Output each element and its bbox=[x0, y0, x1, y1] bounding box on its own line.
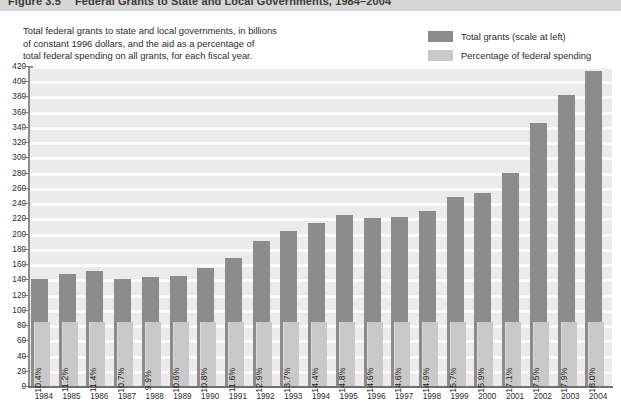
x-tick-label: 1985 bbox=[62, 392, 80, 401]
bar-series-container: 10.4%11.2%11.4%10.7%9.9%10.6%10.8%11.6%1… bbox=[30, 66, 612, 386]
figure-title-text: Figure 3.5Federal Grants to State and Lo… bbox=[8, 0, 391, 7]
bar-percentage-label: 14.6% bbox=[393, 367, 403, 392]
bar-percentage-label: 11.2% bbox=[60, 368, 70, 393]
bar-group[interactable]: 14.6% bbox=[363, 66, 391, 386]
bar-group[interactable]: 11.2% bbox=[58, 66, 86, 386]
y-tick-mark bbox=[23, 310, 29, 311]
bar-percentage-label: 11.6% bbox=[227, 368, 237, 393]
x-tick-label: 2001 bbox=[506, 392, 524, 401]
x-tick-label: 1984 bbox=[35, 392, 53, 401]
bar-group[interactable]: 9.9% bbox=[141, 66, 169, 386]
bar-percentage-label: 13.7% bbox=[282, 367, 292, 392]
x-axis-labels: 1984198519861987198819891990199119921993… bbox=[30, 392, 612, 408]
bar-percentage[interactable]: 11.2% bbox=[62, 322, 78, 386]
y-tick-mark bbox=[23, 356, 29, 357]
legend-item-total-grants: Total grants (scale at left) bbox=[428, 28, 618, 45]
x-tick-label: 1988 bbox=[146, 392, 164, 401]
bar-percentage[interactable]: 10.4% bbox=[34, 322, 50, 386]
bar-percentage-label: 11.4% bbox=[88, 368, 98, 393]
y-tick-mark bbox=[23, 279, 29, 280]
y-tick-mark bbox=[23, 66, 29, 67]
bar-group[interactable]: 11.4% bbox=[85, 66, 113, 386]
bar-percentage-label: 10.6% bbox=[171, 367, 181, 392]
bar-percentage[interactable]: 14.8% bbox=[339, 322, 355, 386]
bar-percentage[interactable]: 10.7% bbox=[117, 322, 133, 386]
y-tick-mark bbox=[23, 249, 29, 250]
caption-line-1: Total federal grants to state and local … bbox=[23, 25, 323, 38]
legend-swatch-total-grants bbox=[428, 31, 453, 42]
bar-percentage[interactable]: 10.6% bbox=[173, 322, 189, 386]
figure-caption: Total federal grants to state and local … bbox=[23, 25, 323, 63]
bar-percentage-label: 14.6% bbox=[365, 367, 375, 392]
bar-percentage[interactable]: 14.9% bbox=[422, 322, 438, 386]
bar-percentage-label: 15.7% bbox=[448, 367, 458, 392]
bar-percentage-label: 15.9% bbox=[476, 367, 486, 392]
bar-group[interactable]: 11.6% bbox=[224, 66, 252, 386]
figure-number: Figure 3.5 bbox=[8, 0, 61, 7]
bar-percentage-label: 17.9% bbox=[559, 367, 569, 392]
bar-percentage-label: 9.9% bbox=[143, 370, 153, 390]
bar-percentage[interactable]: 13.7% bbox=[283, 322, 299, 386]
bar-percentage[interactable]: 12.9% bbox=[256, 322, 272, 386]
bar-percentage[interactable]: 10.8% bbox=[200, 322, 216, 386]
bar-group[interactable]: 15.7% bbox=[446, 66, 474, 386]
y-tick-mark bbox=[23, 81, 29, 82]
bar-group[interactable]: 14.8% bbox=[335, 66, 363, 386]
x-tick-label: 1999 bbox=[450, 392, 468, 401]
bar-percentage-label: 14.4% bbox=[310, 367, 320, 392]
bar-percentage-label: 17.5% bbox=[531, 367, 541, 392]
bar-percentage[interactable]: 17.9% bbox=[561, 322, 577, 386]
bar-percentage[interactable]: 15.9% bbox=[477, 322, 493, 386]
y-tick-mark bbox=[23, 218, 29, 219]
bar-percentage[interactable]: 9.9% bbox=[145, 322, 161, 386]
x-tick-label: 2002 bbox=[534, 392, 552, 401]
bar-percentage[interactable]: 15.7% bbox=[450, 322, 466, 386]
x-tick-label: 1997 bbox=[395, 392, 413, 401]
y-tick-mark bbox=[23, 203, 29, 204]
bar-group[interactable]: 14.9% bbox=[418, 66, 446, 386]
bar-percentage[interactable]: 14.6% bbox=[394, 322, 410, 386]
bar-group[interactable]: 10.8% bbox=[196, 66, 224, 386]
bar-group[interactable]: 17.5% bbox=[529, 66, 557, 386]
bar-group[interactable]: 13.7% bbox=[279, 66, 307, 386]
bar-group[interactable]: 14.4% bbox=[307, 66, 335, 386]
bar-group[interactable]: 10.4% bbox=[30, 66, 58, 386]
figure-title-bar: Figure 3.5Federal Grants to State and Lo… bbox=[0, 0, 621, 11]
legend-label-percentage: Percentage of federal spending bbox=[461, 50, 591, 61]
bar-group[interactable]: 12.9% bbox=[252, 66, 280, 386]
y-tick-mark bbox=[23, 173, 29, 174]
bar-percentage[interactable]: 11.6% bbox=[228, 322, 244, 386]
y-tick-mark bbox=[23, 142, 29, 143]
bar-group[interactable]: 17.1% bbox=[501, 66, 529, 386]
x-tick-label: 1986 bbox=[90, 392, 108, 401]
bar-group[interactable]: 15.9% bbox=[473, 66, 501, 386]
caption-line-2: of constant 1996 dollars, and the aid as… bbox=[23, 38, 323, 51]
bar-group[interactable]: 14.6% bbox=[390, 66, 418, 386]
bar-percentage[interactable]: 14.4% bbox=[311, 322, 327, 386]
bar-percentage[interactable]: 18.0% bbox=[588, 322, 604, 386]
bar-percentage-label: 10.8% bbox=[199, 367, 209, 392]
chart-legend: Total grants (scale at left) Percentage … bbox=[428, 28, 618, 66]
chart-plot: 0204060801001201401601802002202402602803… bbox=[0, 62, 621, 408]
bar-group[interactable]: 17.9% bbox=[557, 66, 585, 386]
bar-percentage-label: 14.9% bbox=[421, 367, 431, 392]
bar-percentage-label: 18.0% bbox=[587, 367, 597, 392]
bar-group[interactable]: 18.0% bbox=[584, 66, 612, 386]
y-tick-mark bbox=[23, 295, 29, 296]
caption-line-3: total federal spending on all grants, fo… bbox=[23, 50, 323, 63]
bar-percentage[interactable]: 17.1% bbox=[505, 322, 521, 386]
legend-label-total-grants: Total grants (scale at left) bbox=[461, 31, 566, 42]
y-tick-mark bbox=[23, 340, 29, 341]
bar-percentage[interactable]: 14.6% bbox=[367, 322, 383, 386]
x-tick-label: 1993 bbox=[284, 392, 302, 401]
bar-group[interactable]: 10.6% bbox=[169, 66, 197, 386]
bar-percentage[interactable]: 11.4% bbox=[89, 322, 105, 386]
bar-group[interactable]: 10.7% bbox=[113, 66, 141, 386]
x-tick-label: 1987 bbox=[118, 392, 136, 401]
bar-percentage[interactable]: 17.5% bbox=[533, 322, 549, 386]
x-tick-label: 1992 bbox=[256, 392, 274, 401]
y-tick-mark bbox=[23, 96, 29, 97]
page-title: Federal Grants to State and Local Govern… bbox=[75, 0, 391, 7]
x-tick-label: 1989 bbox=[173, 392, 191, 401]
figure-page: Figure 3.5Federal Grants to State and Lo… bbox=[0, 0, 621, 408]
